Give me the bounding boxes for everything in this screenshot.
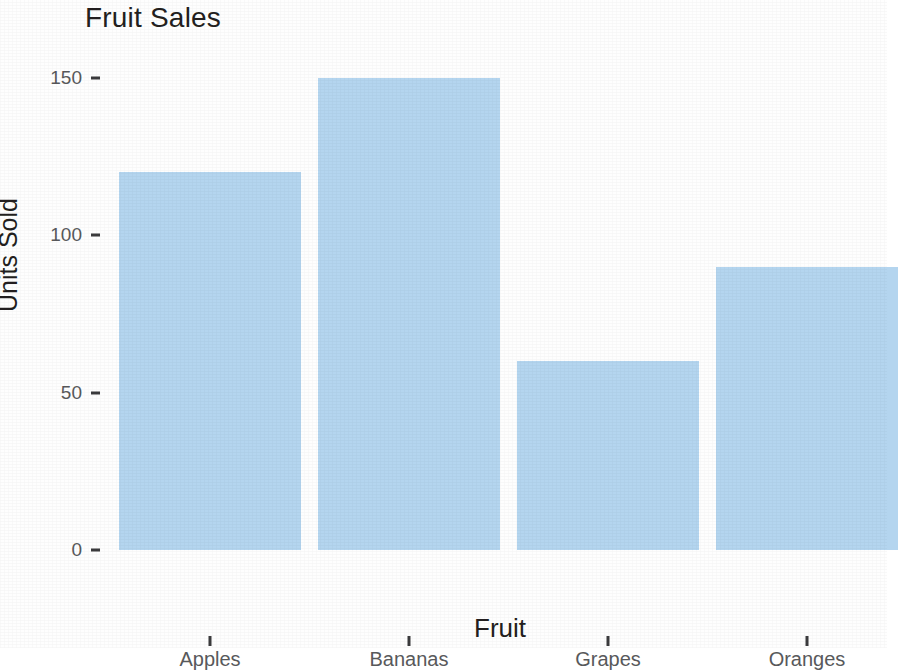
x-tick-mark bbox=[607, 636, 610, 646]
y-tick-label: 50 bbox=[61, 382, 82, 404]
x-tick-label-bananas: Bananas bbox=[370, 648, 449, 671]
y-tick-mark bbox=[91, 234, 100, 237]
x-tick-label-oranges: Oranges bbox=[769, 648, 846, 671]
x-tick-mark bbox=[209, 636, 212, 646]
x-tick-label-grapes: Grapes bbox=[575, 648, 641, 671]
y-tick-mark bbox=[91, 76, 100, 79]
y-axis-title: Units Sold bbox=[0, 198, 23, 312]
y-tick-label: 100 bbox=[50, 224, 82, 246]
y-tick-label: 150 bbox=[50, 67, 82, 89]
x-tick-mark bbox=[806, 636, 809, 646]
y-tick-mark bbox=[91, 549, 100, 552]
bar-apples[interactable] bbox=[119, 172, 301, 550]
plot-area: 050100150ApplesBananasGrapesOranges bbox=[104, 62, 887, 550]
bar-grapes[interactable] bbox=[517, 361, 699, 550]
x-axis-title: Fruit bbox=[474, 613, 526, 644]
bar-oranges[interactable] bbox=[716, 267, 898, 550]
chart-title: Fruit Sales bbox=[85, 2, 221, 34]
bar-bananas[interactable] bbox=[318, 78, 500, 550]
y-tick-label: 0 bbox=[71, 539, 82, 561]
x-tick-label-apples: Apples bbox=[179, 648, 240, 671]
x-tick-mark bbox=[408, 636, 411, 646]
y-tick-mark bbox=[91, 391, 100, 394]
